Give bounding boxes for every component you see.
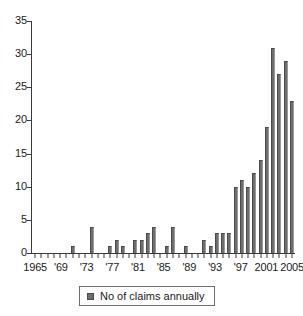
y-axis-tick (27, 87, 31, 88)
bar (90, 227, 94, 254)
y-axis-tick (27, 120, 31, 121)
chart-figure: 05101520253035 1965'69'73'77'81'85'89'93… (0, 0, 303, 316)
bar (246, 187, 250, 253)
plot-area: 05101520253035 1965'69'73'77'81'85'89'93… (0, 0, 303, 270)
bar (259, 160, 263, 253)
bar (234, 187, 238, 253)
bar (71, 246, 75, 253)
bars-panel (32, 21, 295, 253)
bar-slot (289, 21, 295, 253)
y-axis-tick-label: 15 (15, 148, 27, 159)
bar (227, 233, 231, 253)
bar (277, 74, 281, 253)
bar (252, 173, 256, 253)
bar (146, 233, 150, 253)
bar (221, 233, 225, 253)
bar (171, 227, 175, 254)
x-axis-label-slot: 2005 (289, 261, 295, 277)
bar (240, 180, 244, 253)
y-axis-tick-label: 35 (15, 15, 27, 26)
y-axis-tick (27, 21, 31, 22)
y-axis-tick-label: 30 (15, 48, 27, 59)
y-axis-tick (27, 154, 31, 155)
legend-label: No of claims annually (100, 290, 205, 302)
x-axis-labels: 1965'69'73'77'81'85'89'93'9720012005 (32, 261, 295, 277)
bar (271, 48, 275, 253)
y-axis-tick (27, 253, 31, 254)
y-axis-tick (27, 220, 31, 221)
x-axis-ticks (32, 254, 295, 259)
bar (165, 246, 169, 253)
bar-series (32, 21, 295, 253)
bar (209, 246, 213, 253)
bar (140, 240, 144, 253)
bar (184, 246, 188, 253)
bar (108, 246, 112, 253)
bar (121, 246, 125, 253)
bar (265, 127, 269, 253)
y-axis-tick-label: 20 (15, 114, 27, 125)
bar (115, 240, 119, 253)
bar (202, 240, 206, 253)
bar (284, 61, 288, 253)
legend-swatch-icon (87, 293, 94, 300)
bar (215, 233, 219, 253)
x-axis-tick (289, 254, 295, 259)
bar (290, 101, 294, 253)
x-axis-tick-label: 2005 (280, 261, 303, 273)
y-axis-tick-label: 10 (15, 181, 27, 192)
bar (133, 240, 137, 253)
y-axis-tick-label: 25 (15, 81, 27, 92)
y-axis-labels: 05101520253035 (0, 0, 30, 270)
y-axis-tick (27, 187, 31, 188)
chart-legend: No of claims annually (79, 286, 215, 306)
bar (152, 227, 156, 254)
y-axis-tick (27, 54, 31, 55)
